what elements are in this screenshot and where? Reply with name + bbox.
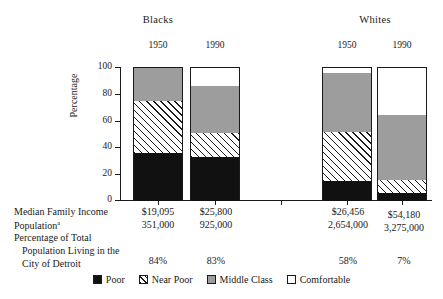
bar-whites-1990 (377, 67, 427, 200)
cell-population-blacks-1990: 925,000 (200, 219, 233, 230)
cell-pct-detroit-whites-1950: 58% (339, 255, 357, 266)
stacked-bar-chart: Blacks Whites 1950 1990 1950 1990 Percen… (0, 0, 443, 299)
segment-poor (191, 157, 239, 201)
legend-label-comfortable: Comfortable (300, 274, 351, 285)
row-label-population: Populationa (14, 219, 60, 231)
y-tick-label-20: 20 (88, 168, 112, 178)
middle-class-swatch-icon (207, 275, 216, 284)
comfortable-swatch-icon (287, 275, 296, 284)
x-tick-mid (281, 201, 282, 205)
year-header-whites-1990: 1990 (393, 40, 412, 50)
legend-item-near-poor: Near Poor (139, 274, 193, 285)
segment-middle-class (378, 115, 426, 180)
segment-near-poor (134, 101, 182, 153)
cell-income-whites-1950: $26,456 (332, 206, 365, 217)
bar-blacks-1990 (190, 67, 240, 200)
segment-middle-class (191, 86, 239, 133)
bar-blacks-1950 (133, 67, 183, 200)
y-tick-label-100: 100 (88, 61, 112, 71)
legend-item-comfortable: Comfortable (287, 274, 351, 285)
segment-comfortable (191, 68, 239, 86)
y-tick-label-60: 60 (88, 115, 112, 125)
x-tick-blacks-1950 (158, 201, 159, 205)
footnote-marker: a (57, 219, 60, 226)
cell-income-whites-1990: $54,180 (388, 209, 421, 220)
y-tick-60 (115, 121, 120, 122)
y-tick-40 (115, 147, 120, 148)
bar-whites-1950 (322, 67, 372, 200)
y-tick-100 (115, 67, 120, 68)
y-axis-title: Percentage (68, 56, 79, 136)
cell-pct-detroit-whites-1990: 7% (397, 255, 410, 266)
segment-near-poor (323, 132, 371, 181)
group-header-blacks: Blacks (143, 14, 173, 25)
row-label-pct-line1: Percentage of Total (14, 232, 91, 243)
chart-legend: Poor Near Poor Middle Class Comfortable (0, 271, 443, 287)
legend-item-middle-class: Middle Class (207, 274, 273, 285)
cell-population-whites-1990: 3,275,000 (384, 222, 424, 233)
y-tick-label-80: 80 (88, 88, 112, 98)
cell-population-whites-1950: 2,654,000 (328, 219, 368, 230)
group-header-whites: Whites (359, 14, 391, 25)
cell-population-blacks-1950: 351,000 (142, 219, 175, 230)
segment-near-poor (191, 133, 239, 157)
y-tick-label-40: 40 (88, 141, 112, 151)
segment-middle-class (134, 68, 182, 101)
x-tick-blacks-1990 (215, 201, 216, 205)
segment-middle-class (323, 73, 371, 132)
year-header-blacks-1990: 1990 (206, 40, 225, 50)
cell-pct-detroit-blacks-1950: 84% (149, 255, 167, 266)
y-tick-0 (115, 200, 120, 201)
cell-pct-detroit-blacks-1990: 83% (207, 255, 225, 266)
year-header-blacks-1950: 1950 (149, 40, 168, 50)
segment-near-poor (378, 180, 426, 193)
y-tick-80 (115, 94, 120, 95)
segment-poor (134, 153, 182, 201)
poor-swatch-icon (93, 275, 102, 284)
cell-income-blacks-1990: $25,800 (200, 206, 233, 217)
row-label-pct-line3: City of Detroit (22, 258, 81, 269)
cell-income-blacks-1950: $19,095 (142, 206, 175, 217)
row-label-median-family-income: Median Family Income (14, 206, 108, 217)
legend-label-poor: Poor (106, 274, 125, 285)
row-label-pct-line2: Population Living in the (22, 245, 120, 256)
x-tick-whites-1990 (402, 201, 403, 205)
legend-item-poor: Poor (93, 274, 125, 285)
x-tick-whites-1950 (347, 201, 348, 205)
legend-label-near-poor: Near Poor (152, 274, 193, 285)
y-tick-20 (115, 174, 120, 175)
y-axis-line (120, 67, 121, 201)
y-tick-label-0: 0 (88, 194, 112, 204)
segment-poor (378, 193, 426, 201)
row-label-population-text: Population (14, 220, 57, 231)
segment-comfortable (378, 68, 426, 115)
segment-poor (323, 181, 371, 201)
near-poor-swatch-icon (139, 275, 148, 284)
legend-label-middle-class: Middle Class (220, 274, 273, 285)
year-header-whites-1950: 1950 (338, 40, 357, 50)
